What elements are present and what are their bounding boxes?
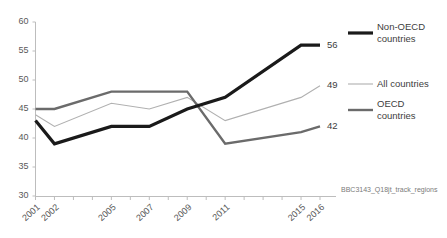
y-tick-label: 50 xyxy=(18,74,28,84)
y-tick-label: 30 xyxy=(18,190,28,200)
chart-caption: BBC3143_Q18jt_track_regions xyxy=(341,186,438,194)
x-tick-label: 2007 xyxy=(134,202,156,223)
series-line-non-oecd-countries xyxy=(36,45,321,144)
x-tick-label: 2015 xyxy=(286,202,308,223)
legend-label: Non-OECD xyxy=(377,21,425,32)
chart-legend: Non-OECDcountriesAll countriesOECDcountr… xyxy=(348,21,429,121)
y-axis-ticks: 30354045505560 xyxy=(18,16,35,200)
y-tick-label: 60 xyxy=(18,16,28,26)
x-tick-label: 2005 xyxy=(96,202,118,223)
x-axis-labels: 20012002200520072009201120152016 xyxy=(20,202,326,223)
x-tick-label: 2011 xyxy=(210,202,231,222)
end-value-label: 56 xyxy=(327,39,338,50)
y-tick-label: 45 xyxy=(18,103,28,113)
end-value-label: 42 xyxy=(327,120,338,131)
x-tick-label: 2002 xyxy=(39,202,61,223)
legend-label: OECD xyxy=(377,98,405,109)
y-tick-label: 40 xyxy=(18,132,28,142)
legend-label: countries xyxy=(377,110,416,121)
legend-label: countries xyxy=(377,33,416,44)
x-tick-label: 2001 xyxy=(20,202,42,223)
end-value-label: 49 xyxy=(327,79,338,90)
chart-canvas: 30354045505560 2001200220052007200920112… xyxy=(0,0,447,238)
end-value-labels: 564942 xyxy=(327,39,338,131)
y-tick-label: 55 xyxy=(18,45,28,55)
series-lines xyxy=(36,45,321,144)
x-tick-label: 2016 xyxy=(305,202,327,223)
line-chart: 30354045505560 2001200220052007200920112… xyxy=(0,0,447,238)
x-tick-label: 2009 xyxy=(172,202,194,223)
y-tick-label: 35 xyxy=(18,161,28,171)
legend-label: All countries xyxy=(377,78,429,89)
